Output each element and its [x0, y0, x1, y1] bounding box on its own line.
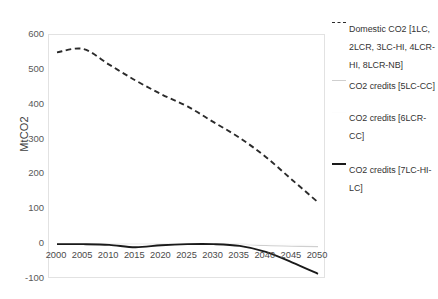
y-axis: MtCO2 6005004003002001000-100 [0, 0, 44, 299]
chart-legend: Domestic CO2 [1LC, 2LCR, 3LC-HI, 4LCR-HI… [332, 18, 438, 197]
x-tick-label: 2050 [304, 251, 330, 260]
series-line [57, 48, 318, 202]
chart-figure: MtCO2 6005004003002001000-100 Domestic C… [0, 0, 438, 299]
y-tick-label: 300 [10, 134, 44, 144]
legend-item[interactable]: CO2 credits [5LC-CC] [332, 75, 438, 93]
legend-marker-faint-icon [332, 112, 346, 113]
x-tick-label: 2030 [200, 251, 226, 260]
y-tick-label: 600 [10, 29, 44, 39]
y-tick-label: 500 [10, 64, 44, 74]
legend-label: CO2 credits [6LCR-CC] [349, 113, 426, 141]
legend-label: CO2 credits [7LC-HI-LC] [349, 165, 431, 193]
legend-item[interactable]: Domestic CO2 [1LC, 2LCR, 3LC-HI, 4LCR-HI… [332, 18, 438, 72]
x-tick-label: 2000 [43, 251, 69, 260]
y-tick-label: 400 [10, 99, 44, 109]
legend-marker-light-icon [332, 80, 346, 81]
x-tick-label: 2045 [278, 251, 304, 260]
legend-item[interactable]: CO2 credits [7LC-HI-LC] [332, 159, 438, 195]
x-tick-label: 2010 [95, 251, 121, 260]
x-tick-label: 2020 [147, 251, 173, 260]
x-tick-label: 2025 [174, 251, 200, 260]
y-tick-label: 100 [10, 203, 44, 213]
x-tick-label: 2015 [121, 251, 147, 260]
x-tick-label: 2035 [226, 251, 252, 260]
legend-label: Domestic CO2 [1LC, 2LCR, 3LC-HI, 4LCR-HI… [349, 24, 435, 70]
legend-marker-dashed-icon [332, 22, 346, 23]
plot-area [48, 34, 325, 278]
legend-label: CO2 credits [5LC-CC] [349, 81, 435, 91]
y-tick-label: 0 [10, 238, 44, 248]
series-canvas [49, 35, 326, 279]
y-tick-label: -100 [10, 273, 44, 283]
x-tick-label: 2040 [252, 251, 278, 260]
x-tick-label: 2005 [69, 251, 95, 260]
y-tick-label: 200 [10, 168, 44, 178]
legend-marker-solid-icon [332, 163, 346, 165]
legend-item[interactable]: CO2 credits [6LCR-CC] [332, 107, 438, 143]
